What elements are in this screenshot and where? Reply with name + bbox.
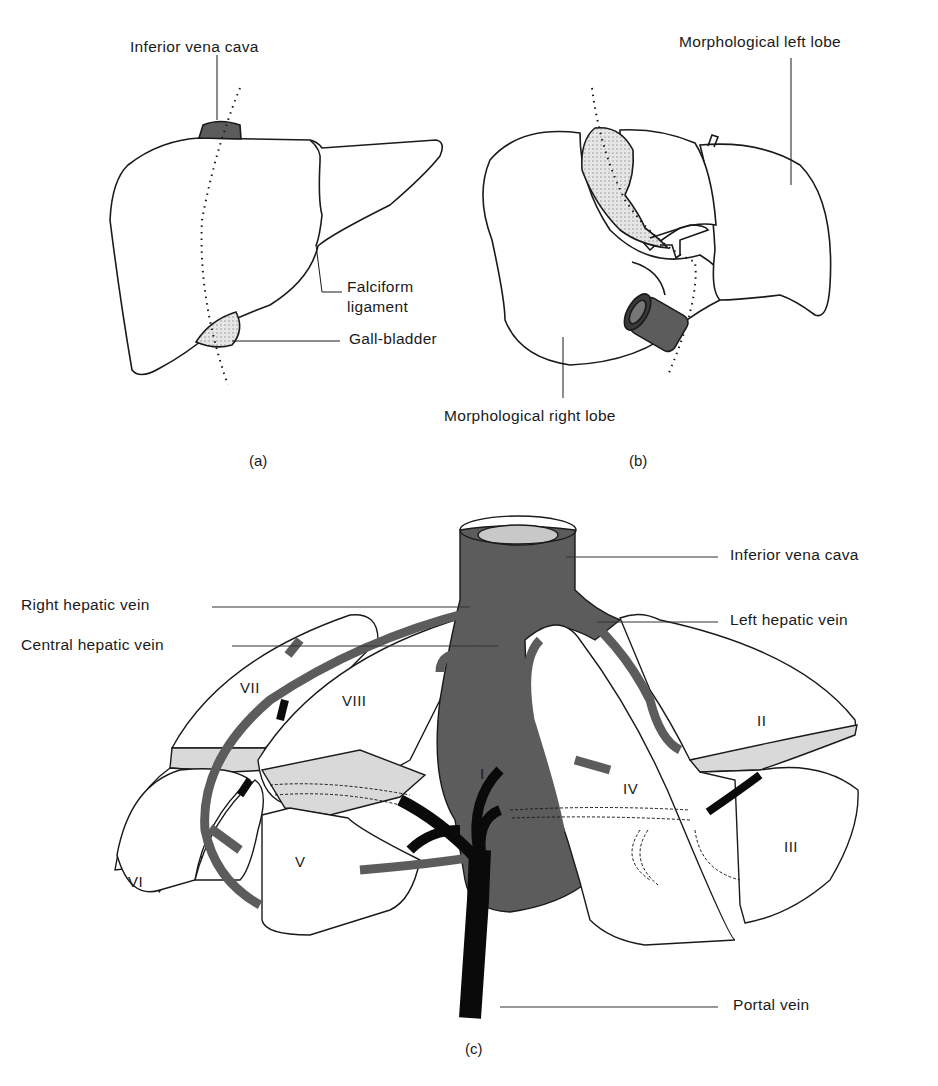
label-a-falciform-line2: ligament (347, 298, 408, 315)
label-c-central-hepatic-vein: Central hepatic vein (21, 636, 164, 653)
segment-label-vi: VI (128, 873, 143, 890)
segment-label-v: V (295, 853, 306, 870)
portal-vein-trunk (470, 850, 480, 1018)
ivc-stub-a (199, 122, 241, 140)
panel-c-drawing (115, 516, 858, 1018)
label-a-gall-bladder: Gall-bladder (349, 330, 437, 347)
segment-label-i: I (480, 765, 485, 782)
caption-b: (b) (629, 452, 647, 469)
segment-label-iv: IV (623, 780, 638, 797)
segment-label-ii: II (757, 712, 766, 729)
label-c-right-hepatic-vein: Right hepatic vein (21, 596, 150, 613)
caption-c: (c) (465, 1040, 483, 1057)
panel-b-drawing (483, 58, 831, 398)
segment-label-iii: III (784, 838, 798, 855)
label-b-morphological-right-lobe: Morphological right lobe (444, 407, 616, 424)
label-a-inferior-vena-cava: Inferior vena cava (130, 38, 259, 55)
segment-label-vii: VII (240, 679, 260, 696)
left-lobe-b (700, 144, 831, 315)
liver-anatomy-figure: Inferior vena cava Falciform ligament Ga… (0, 0, 938, 1086)
segment-v-shape (262, 808, 420, 935)
segment-iii-shape (700, 768, 858, 924)
figure-drawing (0, 0, 938, 1086)
caption-a: (a) (249, 452, 267, 469)
label-a-falciform-line1: Falciform (347, 278, 413, 295)
label-c-portal-vein: Portal vein (733, 996, 810, 1013)
label-c-left-hepatic-vein: Left hepatic vein (730, 611, 848, 628)
label-b-morphological-left-lobe: Morphological left lobe (679, 33, 841, 50)
label-c-inferior-vena-cava: Inferior vena cava (730, 546, 859, 563)
segment-label-viii: VIII (342, 692, 367, 709)
